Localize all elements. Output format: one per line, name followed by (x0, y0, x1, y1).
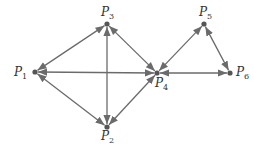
edge-p2-p4 (109, 75, 155, 125)
edge-p1-p3 (37, 26, 104, 71)
nodes (32, 21, 232, 129)
node-p5 (201, 21, 206, 26)
edge-p3-p4 (109, 26, 155, 71)
node-p6 (227, 70, 232, 75)
label-p4: P4 (155, 77, 168, 92)
node-p1 (32, 69, 37, 74)
label-p5: P5 (199, 6, 212, 21)
graph-canvas (0, 0, 254, 147)
node-p4 (154, 70, 159, 75)
label-p2: P2 (101, 130, 114, 145)
edge-p1-p2 (37, 74, 104, 125)
edge-p4-p5 (159, 26, 202, 71)
node-p3 (104, 21, 109, 26)
edge-p5-p6 (205, 27, 228, 71)
label-p3: P3 (101, 6, 114, 21)
label-p1: P1 (14, 66, 27, 81)
label-p6: P6 (236, 66, 249, 81)
edge-p1-p4 (38, 72, 154, 73)
edges (37, 26, 228, 126)
